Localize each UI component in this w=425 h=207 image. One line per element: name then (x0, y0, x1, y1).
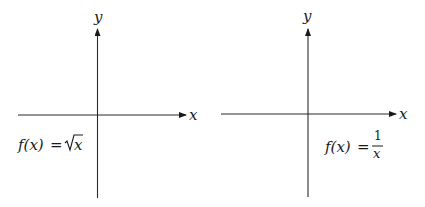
x-axis-label: x (189, 106, 198, 124)
fraction-denominator: x (373, 146, 381, 161)
y-axis-label: y (302, 7, 312, 25)
formula-radicand: x (74, 136, 83, 154)
formula-equals: = (357, 138, 370, 156)
formula-reciprocal: f(x) = 1 x (324, 129, 383, 161)
fraction-numerator: 1 (374, 129, 382, 143)
formula-sqrt: f(x) = x (17, 135, 83, 154)
x-axis-label: x (399, 105, 408, 123)
panel-reciprocal: x y f(x) = 1 x (221, 7, 408, 197)
panel-sqrt: x y f(x) = x (17, 8, 198, 198)
formula-equals: = (50, 136, 63, 154)
formula-lhs: f(x) (324, 138, 351, 156)
diagram-canvas: x y f(x) = x x y f(x) = 1 x (0, 0, 425, 207)
formula-lhs: f(x) (17, 136, 44, 154)
y-axis-label: y (93, 8, 103, 26)
